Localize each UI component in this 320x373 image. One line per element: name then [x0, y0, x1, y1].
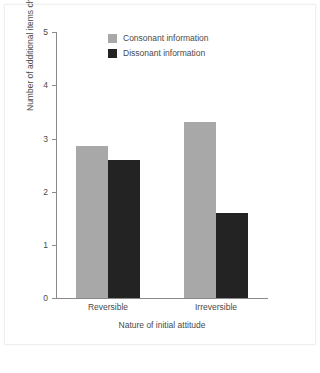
legend-entry-consonant: Consonant information — [108, 33, 209, 43]
bar-irreversible-dissonant — [216, 213, 248, 298]
chart-figure: 5 4 3 2 1 0 Reversible Irreversible Natu… — [0, 0, 320, 373]
y-tick-label-3: 3 — [18, 135, 48, 144]
y-tick-mark-5 — [52, 32, 56, 33]
y-tick-mark-2 — [52, 192, 56, 193]
y-tick-label-2: 2 — [18, 188, 48, 197]
y-tick-label-1: 1 — [18, 241, 48, 250]
y-tick-mark-0 — [52, 298, 56, 299]
legend-entry-dissonant: Dissonant information — [108, 48, 209, 58]
legend-swatch-consonant-icon — [108, 34, 117, 43]
bar-reversible-dissonant — [108, 160, 140, 298]
y-tick-mark-4 — [52, 85, 56, 86]
legend-label-dissonant: Dissonant information — [123, 49, 205, 58]
chart-legend: Consonant information Dissonant informat… — [108, 33, 209, 63]
x-axis-line — [56, 298, 268, 299]
x-axis-title: Nature of initial attitude — [56, 321, 268, 330]
y-tick-label-0: 0 — [18, 294, 48, 303]
legend-label-consonant: Consonant information — [123, 34, 209, 43]
plot-area: 5 4 3 2 1 0 Reversible Irreversible Natu… — [0, 0, 320, 373]
y-axis-line — [56, 32, 57, 298]
legend-swatch-dissonant-icon — [108, 49, 117, 58]
bar-irreversible-consonant — [184, 122, 216, 298]
x-tick-label-reversible: Reversible — [68, 303, 148, 312]
y-axis-title: Number of additional items chosen — [26, 0, 35, 111]
y-tick-mark-1 — [52, 245, 56, 246]
x-tick-label-irreversible: Irreversible — [176, 303, 256, 312]
y-tick-mark-3 — [52, 139, 56, 140]
bar-reversible-consonant — [76, 146, 108, 298]
